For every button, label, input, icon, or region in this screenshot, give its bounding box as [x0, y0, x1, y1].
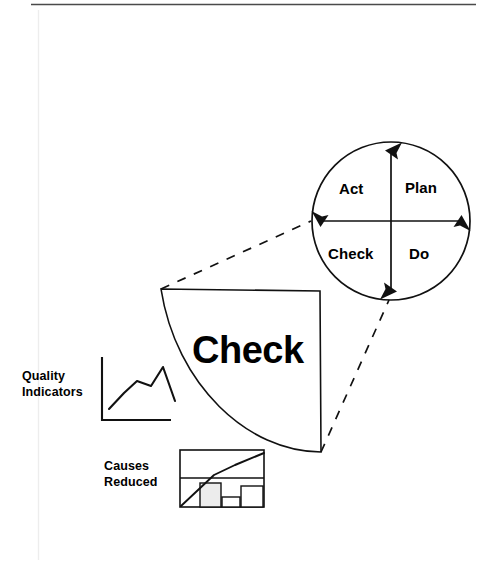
quality-indicators-axes [102, 357, 171, 420]
quality-indicators-caption-line2: Indicators [22, 385, 83, 400]
causes-reduced-caption-line1: Causes [104, 459, 149, 474]
causes-reduced-bar [222, 497, 240, 507]
pdca-circle-group [312, 142, 471, 300]
pdca-label-do: Do [409, 245, 429, 263]
pdca-label-plan: Plan [405, 179, 437, 197]
callout-line-lower [321, 300, 389, 452]
quality-indicators-line [109, 367, 175, 409]
pdca-label-check: Check [328, 245, 374, 263]
callout-line-upper [161, 221, 311, 289]
pdca-label-act: Act [339, 180, 363, 198]
quality-indicators-caption-line1: Quality [22, 369, 65, 384]
causes-reduced-bar [200, 483, 221, 507]
causes-reduced-chart [180, 450, 264, 507]
quality-indicators-chart [102, 357, 175, 420]
diagram-vector-layer [0, 0, 500, 566]
causes-reduced-caption-line2: Reduced [104, 475, 158, 490]
causes-reduced-bar [241, 486, 263, 507]
diagram-canvas: Act Plan Check Do Check Quality Indicato… [0, 0, 500, 566]
magnified-wedge-label: Check [192, 328, 304, 373]
